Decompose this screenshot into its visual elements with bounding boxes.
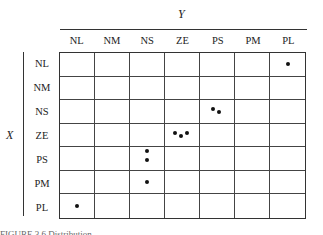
row-header: ZE [27,124,57,148]
grid-cell [165,194,200,218]
grid-cell [95,124,130,148]
grid-cell [95,53,130,77]
grid-cell [200,171,235,195]
row-header: NS [27,100,57,124]
grid-cell [235,171,270,195]
grid-cell [270,77,305,101]
data-point-dot [211,107,215,111]
column-header: ZE [165,35,200,49]
grid-cell [200,100,235,124]
row-header: NL [27,52,57,76]
grid-cell [200,124,235,148]
column-header: PM [235,35,270,49]
column-header: PL [271,35,306,49]
grid-cell [270,53,305,77]
grid-cell [200,147,235,171]
grid-cell [165,100,200,124]
grid-cell [95,171,130,195]
grid-cell [165,53,200,77]
grid-cell [165,77,200,101]
grid-cell [130,147,165,171]
grid-cell [200,194,235,218]
grid-cell [60,77,95,101]
data-point-dot [145,149,149,153]
grid-cell [270,147,305,171]
grid-cell [235,77,270,101]
data-point-dot [179,134,183,138]
grid-cell [95,100,130,124]
grid-cell [130,77,165,101]
data-point-dot [145,158,149,162]
data-point-dot [286,62,290,66]
grid-cell [60,100,95,124]
grid-cell [270,100,305,124]
data-point-dot [145,180,149,184]
grid-cell [235,124,270,148]
grid-cell [270,124,305,148]
data-point-dot [75,204,79,208]
data-point-dot [173,131,177,135]
row-header: PS [27,147,57,171]
grid-cell [200,77,235,101]
column-header: NL [59,35,94,49]
column-header: NS [130,35,165,49]
relation-grid [59,52,306,219]
grid-cell [165,147,200,171]
grid-cell [95,147,130,171]
row-header: NM [27,76,57,100]
grid-cell [60,147,95,171]
column-header: PS [200,35,235,49]
grid-cell [165,124,200,148]
grid-cell [130,53,165,77]
grid-cell [130,194,165,218]
grid-cell [235,53,270,77]
grid-cell [235,194,270,218]
row-header: PM [27,171,57,195]
grid-cell [130,100,165,124]
grid-cell [60,53,95,77]
column-headers: NL NM NS ZE PS PM PL [59,35,306,49]
grid-cell [95,194,130,218]
figure-caption: FIGURE 3.6 Distribution ... [0,229,101,235]
grid-cell [60,171,95,195]
grid-cell [60,124,95,148]
x-axis-rule [23,52,24,216]
grid-cell [235,100,270,124]
grid-cell [95,77,130,101]
grid-cell [130,124,165,148]
y-axis-rule [60,29,307,30]
row-header: PL [27,195,57,219]
grid-cell [270,194,305,218]
grid-cell [235,147,270,171]
data-point-dot [217,110,221,114]
grid-cell [165,171,200,195]
x-axis-title: X [6,128,13,143]
y-axis-title: Y [178,7,185,22]
data-point-dot [185,131,189,135]
grid-cell [270,171,305,195]
grid-cell [60,194,95,218]
column-header: NM [94,35,129,49]
row-headers: NL NM NS ZE PS PM PL [27,52,57,219]
grid-cell [130,171,165,195]
grid-cell [200,53,235,77]
